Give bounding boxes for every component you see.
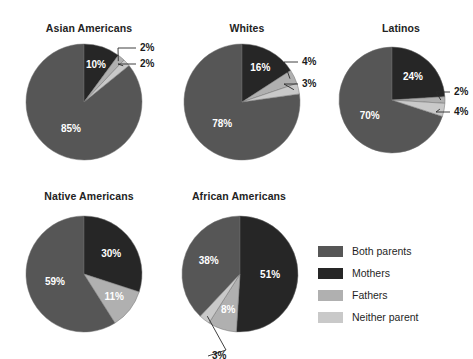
chart-title: Asian Americans: [14, 22, 164, 34]
callout-value-label: 3%: [302, 78, 317, 89]
legend-label: Mothers: [352, 267, 390, 279]
pie-svg: 38%51%8%3%: [164, 208, 314, 350]
pie-chart-native-americans: Native Americans59%30%11%: [14, 190, 164, 350]
chart-title: African Americans: [164, 190, 314, 202]
slice-value-label: 30%: [101, 248, 121, 259]
legend-color-swatch: [318, 268, 343, 279]
pie-chart-whites: Whites78%16%4%3%: [172, 22, 322, 182]
chart-title: Whites: [172, 22, 322, 34]
callout-value-label: 2%: [140, 42, 155, 53]
legend-color-swatch: [318, 290, 343, 301]
legend-item-both-parents: Both parents: [318, 240, 468, 262]
pie-svg: 70%24%2%4%: [326, 40, 473, 182]
pie-svg: 59%30%11%: [14, 208, 164, 350]
chart-legend: Both parentsMothersFathersNeither parent: [318, 240, 468, 328]
slice-value-label: 16%: [250, 62, 270, 73]
slice-value-label: 38%: [199, 255, 219, 266]
legend-item-neither-parent: Neither parent: [318, 306, 468, 328]
callout-value-label: 2%: [454, 86, 469, 97]
chart-title: Native Americans: [14, 190, 164, 202]
pie-chart-african-americans: African Americans38%51%8%3%: [164, 190, 314, 350]
pie-svg: 78%16%4%3%: [172, 40, 322, 182]
callout-value-label: 4%: [302, 56, 317, 67]
slice-value-label: 51%: [260, 269, 280, 280]
slice-value-label: 70%: [360, 110, 380, 121]
chart-title: Latinos: [326, 22, 473, 34]
legend-color-swatch: [318, 246, 343, 257]
callout-value-label: 4%: [454, 106, 469, 117]
legend-label: Both parents: [352, 245, 412, 257]
slice-value-label: 8%: [221, 304, 236, 315]
pie-chart-asian-americans: Asian Americans85%10%2%2%: [14, 22, 164, 182]
slice-value-label: 78%: [212, 118, 232, 129]
pie-chart-latinos: Latinos70%24%2%4%: [326, 22, 473, 182]
legend-item-fathers: Fathers: [318, 284, 468, 306]
slice-value-label: 85%: [61, 123, 81, 134]
slice-value-label: 24%: [403, 71, 423, 82]
slice-value-label: 10%: [86, 59, 106, 70]
legend-color-swatch: [318, 312, 343, 323]
pie-svg: 85%10%2%2%: [14, 40, 164, 182]
slice-value-label: 59%: [45, 276, 65, 287]
legend-item-mothers: Mothers: [318, 262, 468, 284]
legend-label: Fathers: [352, 289, 388, 301]
legend-label: Neither parent: [352, 311, 419, 323]
slice-value-label: 11%: [104, 291, 124, 302]
callout-value-label: 3%: [212, 350, 227, 359]
callout-value-label: 2%: [140, 58, 155, 69]
callout: 4%: [284, 56, 317, 79]
